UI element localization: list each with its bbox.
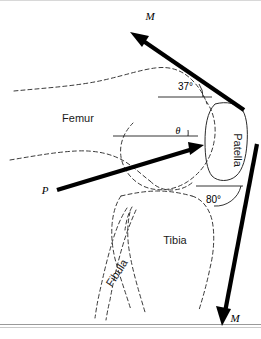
angle-label-37: 37°: [178, 81, 193, 92]
force-line-patellofemoral: [57, 149, 193, 190]
bone-label-tibia: Tibia: [163, 234, 187, 246]
bone-label-patella: Patella: [232, 133, 244, 168]
diagram-canvas: Femur Patella Tibia Fibula M P M 37° θ 8…: [0, 0, 261, 339]
bone-label-fibula: Fibula: [103, 256, 130, 288]
force-vector-patellar-tendon: [216, 144, 257, 326]
tibia-inner-contour: [128, 212, 145, 312]
force-label-patellar-tendon: M: [229, 312, 240, 324]
force-vector-quadriceps: [130, 32, 244, 110]
force-line-quadriceps: [139, 38, 244, 110]
arrowhead-patellar-tendon: [216, 306, 231, 326]
arrowhead-patellofemoral: [188, 142, 204, 155]
bone-label-femur: Femur: [62, 112, 94, 124]
tibial-plateau-contour: [121, 191, 192, 196]
force-vector-patellofemoral: [57, 142, 204, 190]
angle-label-80: 80°: [206, 194, 221, 205]
force-label-quadriceps: M: [144, 10, 155, 22]
femur-inferior-contour: [10, 151, 150, 181]
force-label-patellofemoral: P: [41, 184, 49, 196]
angle-label-theta: θ: [176, 125, 181, 136]
tibia-lateral-contour: [192, 196, 214, 310]
tibia-medial-contour: [112, 196, 131, 310]
knee-biomechanics-figure: Femur Patella Tibia Fibula M P M 37° θ 8…: [0, 0, 261, 339]
